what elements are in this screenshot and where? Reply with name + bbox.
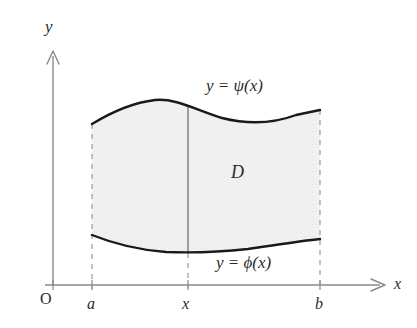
shaded-region-d (92, 100, 320, 253)
lower-curve-label: y = ϕ(x) (216, 254, 271, 271)
figure-canvas (0, 0, 417, 328)
x-axis-label: x (394, 276, 401, 292)
origin-label: O (40, 291, 52, 307)
y-axis-label: y (45, 18, 53, 35)
figure-region-between-curves: y = ψ(x) y = ϕ(x) D y x O a x b (0, 0, 417, 328)
x-tick-label-x: x (182, 296, 189, 312)
upper-curve-label: y = ψ(x) (206, 77, 263, 94)
region-label-d: D (231, 163, 244, 181)
x-tick-label-a: a (87, 296, 95, 312)
x-tick-label-b: b (315, 296, 323, 312)
